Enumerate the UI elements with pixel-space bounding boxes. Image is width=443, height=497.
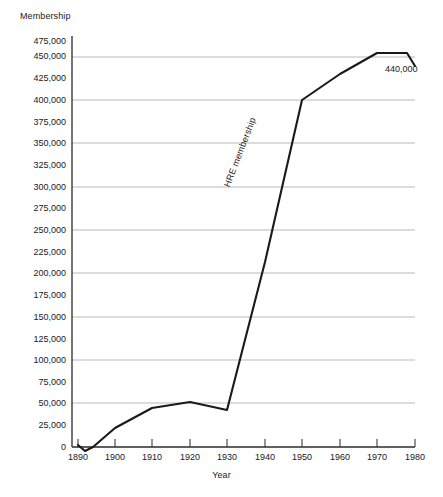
y-tick-label-0: 0 xyxy=(8,442,66,452)
chart-canvas xyxy=(0,0,443,497)
x-tick-label-1950: 1950 xyxy=(282,452,322,462)
y-tick-label-50000: 50,000 xyxy=(8,398,66,408)
series-line-hre-membership xyxy=(78,53,415,451)
y-tick-label-150000: 150,000 xyxy=(8,312,66,322)
axis-spine-group xyxy=(72,36,415,447)
x-tick-label-1890: 1890 xyxy=(58,452,98,462)
x-tick-label-1910: 1910 xyxy=(132,452,172,462)
x-tick-label-1940: 1940 xyxy=(245,452,285,462)
y-tick-label-450000: 450,000 xyxy=(8,51,66,61)
x-tick-label-1920: 1920 xyxy=(170,452,210,462)
x-tick-label-1960: 1960 xyxy=(320,452,360,462)
end-value-annotation: 440,000 xyxy=(385,64,418,74)
y-axis-title: Membership xyxy=(20,11,71,21)
y-tick-label-475000: 475,000 xyxy=(8,36,66,46)
y-tick-label-225000: 225,000 xyxy=(8,247,66,257)
membership-line-chart: Membership Year 475,000 450,000 425,000 … xyxy=(0,0,443,497)
y-tick-label-200000: 200,000 xyxy=(8,268,66,278)
y-tick-label-75000: 75,000 xyxy=(8,377,66,387)
x-tick-label-1930: 1930 xyxy=(207,452,247,462)
y-tick-label-325000: 325,000 xyxy=(8,160,66,170)
gridline-group xyxy=(72,57,415,403)
y-tick-label-275000: 275,000 xyxy=(8,203,66,213)
x-tick-label-1900: 1900 xyxy=(95,452,135,462)
y-tick-label-400000: 400,000 xyxy=(8,95,66,105)
x-tick-label-1980: 1980 xyxy=(395,452,435,462)
y-tick-label-100000: 100,000 xyxy=(8,355,66,365)
y-tick-label-250000: 250,000 xyxy=(8,225,66,235)
y-tick-label-300000: 300,000 xyxy=(8,182,66,192)
x-tickmark-group xyxy=(78,439,415,447)
y-tick-label-350000: 350,000 xyxy=(8,138,66,148)
y-tick-label-375000: 375,000 xyxy=(8,117,66,127)
y-tick-label-125000: 125,000 xyxy=(8,334,66,344)
y-tick-label-175000: 175,000 xyxy=(8,290,66,300)
x-tick-label-1970: 1970 xyxy=(357,452,397,462)
x-axis-title: Year xyxy=(0,470,443,480)
y-tick-label-425000: 425,000 xyxy=(8,73,66,83)
y-tick-label-25000: 25,000 xyxy=(8,420,66,430)
